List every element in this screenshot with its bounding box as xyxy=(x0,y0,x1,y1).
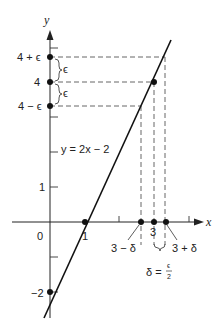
point-3-4 xyxy=(151,79,157,85)
point-x-intercept xyxy=(82,219,88,225)
label-delta-num: ϵ xyxy=(167,262,170,269)
y-axis xyxy=(47,30,54,318)
label-delta-den: 2 xyxy=(167,273,171,280)
equation-label: y = 2x − 2 xyxy=(61,143,109,155)
x-axis-arrow-icon xyxy=(194,219,204,226)
leader-3-minus-delta xyxy=(128,225,139,240)
point-4-minus-eps xyxy=(47,103,53,109)
label-eps-lower: ϵ xyxy=(63,87,68,99)
label-4-plus-eps: 4 + ϵ xyxy=(17,51,41,63)
label-y-1: 1 xyxy=(39,181,45,193)
label-3-plus-delta: 3 + δ xyxy=(172,242,197,254)
label-x-1: 1 xyxy=(82,230,88,242)
label-eps-upper: ϵ xyxy=(63,63,68,75)
point-4-plus-eps xyxy=(47,54,53,60)
label-3-minus-delta: 3 − δ xyxy=(111,242,136,254)
epsilon-delta-diagram: y x 0 4 + ϵ 4 4 − ϵ 1 −2 ϵ ϵ y = 2x − 2 … xyxy=(0,0,219,321)
epsilon-braces xyxy=(55,59,62,104)
y-axis-arrow-icon xyxy=(47,30,54,40)
point-3 xyxy=(151,219,157,225)
label-4-minus-eps: 4 − ϵ xyxy=(18,100,42,112)
label-x-3: 3 xyxy=(150,226,156,238)
x-axis-label: x xyxy=(205,215,212,229)
x-axis xyxy=(12,219,204,226)
leader-3-plus-delta xyxy=(167,225,177,240)
delta-brace xyxy=(154,244,165,251)
origin-label: 0 xyxy=(37,230,43,242)
point-4 xyxy=(47,79,53,85)
point-3-minus-delta xyxy=(138,219,144,225)
point-y-intercept xyxy=(47,289,53,295)
label-delta-eq: δ = xyxy=(146,266,162,278)
delta-equation: δ = ϵ 2 xyxy=(146,262,172,280)
label-4: 4 xyxy=(34,76,40,88)
label-y-neg-2: −2 xyxy=(31,287,44,299)
y-axis-label: y xyxy=(43,13,50,27)
point-3-plus-delta xyxy=(163,219,169,225)
